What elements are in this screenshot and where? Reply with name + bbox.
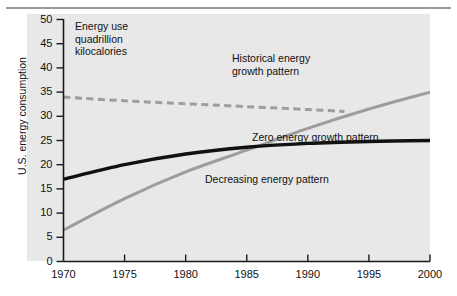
y-tick-label: 25	[27, 135, 53, 146]
x-tick-label: 1995	[349, 269, 389, 280]
y-tick-label: 15	[27, 183, 53, 194]
y-tick-label: 50	[27, 14, 53, 25]
units-caption-label: Energy use quadrillion kilocalories	[75, 20, 128, 58]
x-tick-label: 1970	[44, 269, 84, 280]
decreasing-energy-label: Decreasing energy pattern	[205, 173, 329, 186]
y-tick-label: 40	[27, 62, 53, 73]
x-tick-label: 1990	[288, 269, 328, 280]
y-tick-label: 0	[27, 256, 53, 267]
y-tick-label: 45	[27, 38, 53, 49]
chart-figure: U.S. energy consumption 0510152025303540…	[0, 0, 457, 296]
plot-svg	[0, 0, 457, 296]
x-tick-label: 2000	[410, 269, 450, 280]
x-tick-label: 1975	[105, 269, 145, 280]
historical-growth-label: Historical energy growth pattern	[232, 52, 310, 77]
x-tick-label: 1980	[166, 269, 206, 280]
series-line	[64, 97, 345, 112]
data-series-group	[64, 92, 431, 230]
y-tick-label: 20	[27, 159, 53, 170]
y-tick-label: 35	[27, 86, 53, 97]
y-tick-label: 5	[27, 231, 53, 242]
x-tick-label: 1985	[227, 269, 267, 280]
series-line	[64, 92, 431, 230]
y-tick-label: 30	[27, 110, 53, 121]
zero-growth-label: Zero energy growth pattern	[252, 131, 379, 144]
y-tick-label: 10	[27, 207, 53, 218]
